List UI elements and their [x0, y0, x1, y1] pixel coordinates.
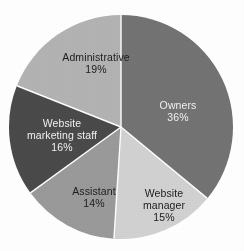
pie-chart-svg [0, 0, 244, 251]
pie-chart: Owners 36% Website manager 15% Assistant… [0, 0, 244, 251]
